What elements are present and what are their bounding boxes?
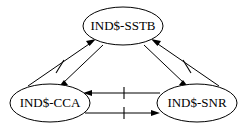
node-sstb[interactable]: IND$-SSTB xyxy=(83,7,163,45)
graph-diagram: IND$-SSTB IND$-CCA IND$-SNR xyxy=(0,0,243,126)
node-label-sstb: IND$-SSTB xyxy=(90,18,155,33)
node-label-snr: IND$-SNR xyxy=(167,95,227,110)
edge-sstb-to-snr xyxy=(144,45,189,88)
edge-group-sstb-cca xyxy=(28,39,103,88)
edge-cca-to-snr xyxy=(85,107,160,119)
edge-line-sstb-to-cca xyxy=(62,45,103,84)
edge-group-cca-snr xyxy=(83,87,160,119)
edge-group-sstb-snr xyxy=(144,39,219,88)
edge-line-sstb-to-snr xyxy=(144,45,185,84)
graph-canvas: IND$-SSTB IND$-CCA IND$-SNR xyxy=(0,0,243,126)
arrowhead-cca-to-snr xyxy=(151,110,160,116)
node-snr[interactable]: IND$-SNR xyxy=(157,84,237,122)
node-cca[interactable]: IND$-CCA xyxy=(10,84,90,122)
node-label-cca: IND$-CCA xyxy=(20,95,81,110)
edge-cca-to-sstb xyxy=(28,39,96,86)
edge-sstb-to-cca xyxy=(58,45,103,88)
edge-snr-to-cca xyxy=(83,87,160,99)
edge-snr-to-sstb xyxy=(151,39,219,86)
